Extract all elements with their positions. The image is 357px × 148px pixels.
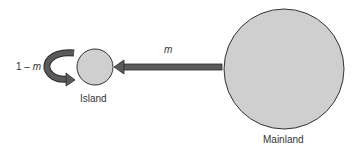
self-recruitment-prefix: 1 –: [16, 61, 33, 72]
mainland-circle: [224, 9, 344, 129]
self-recruitment-var: m: [33, 61, 41, 72]
self-recruitment-label: 1 – m: [16, 61, 41, 72]
island-circle: [77, 49, 113, 85]
self-recruitment-arrow-icon: [47, 53, 75, 86]
migration-arrow-icon: [114, 60, 222, 74]
diagram-canvas: [0, 0, 357, 148]
island-label: Island: [80, 93, 107, 104]
mainland-label: Mainland: [263, 134, 304, 145]
migration-rate-label: m: [164, 44, 172, 55]
